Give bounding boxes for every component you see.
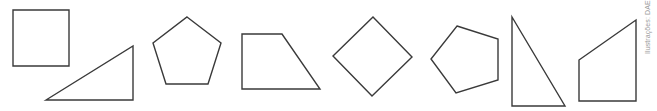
right-triangle-tall-shape <box>512 17 565 106</box>
right-triangle-wide-shape <box>46 46 133 100</box>
rotated-pentagon-shape <box>431 26 498 93</box>
rotated-square-shape <box>333 17 412 96</box>
square-shape <box>13 10 69 66</box>
regular-pentagon-shape <box>153 17 221 84</box>
right-trapezoid-shape <box>242 34 320 89</box>
illustration-credit: Ilustrações: DAE <box>644 0 651 54</box>
shapes-figure <box>0 0 657 111</box>
right-trapezoid-tall-shape <box>579 20 636 101</box>
